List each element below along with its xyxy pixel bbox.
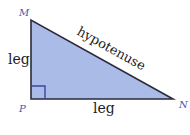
right-triangle-diagram: M P N leg leg hypotenuse	[0, 0, 190, 135]
triangle-shape	[31, 20, 173, 99]
vertical-leg-label: leg	[8, 51, 30, 67]
vertex-label-p: P	[18, 103, 26, 114]
horizontal-leg-label: leg	[93, 100, 115, 116]
vertex-label-n: N	[178, 99, 189, 110]
vertex-label-m: M	[18, 7, 30, 18]
